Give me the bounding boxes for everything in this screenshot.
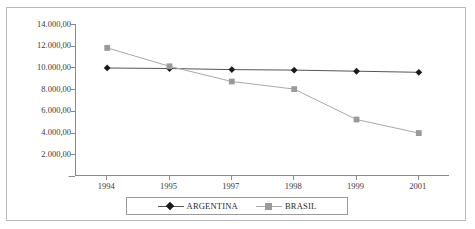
data-point-marker (228, 66, 235, 73)
x-axis-tick-label: 1998 (273, 182, 313, 191)
y-axis-labels: 14.000,0012.000,0010.000,008.000,006.000… (7, 8, 71, 222)
series-line-argentina (107, 68, 419, 72)
legend-entry-brasil[interactable]: BRASIL (256, 202, 316, 211)
y-axis-tick-label: 4.000,00 (41, 128, 71, 137)
legend-entry-argentina[interactable]: ARGENTINA (158, 202, 238, 211)
x-axis-tick-mark (293, 176, 294, 180)
x-axis-tick-mark (231, 176, 232, 180)
legend-square-marker-icon (265, 203, 272, 210)
data-point-marker (104, 65, 111, 72)
data-point-marker (353, 68, 360, 75)
x-axis-tick-mark (106, 176, 107, 180)
data-point-marker (104, 45, 110, 51)
x-axis-tick-label: 2001 (398, 182, 438, 191)
legend-key-swatch (158, 202, 184, 211)
data-point-marker (416, 130, 422, 136)
x-axis-tick-label: 1997 (211, 182, 251, 191)
y-axis-tick-label: 2.000,00 (41, 150, 71, 159)
x-axis-tick-mark (418, 176, 419, 180)
x-axis-tick-label: 1994 (86, 182, 126, 191)
y-axis-tick-label: 10.000,00 (37, 63, 71, 72)
plot-area (75, 24, 449, 176)
chart-legend: ARGENTINABRASIL (126, 197, 348, 215)
series-line-brasil (107, 48, 419, 133)
data-point-marker (167, 63, 173, 69)
x-axis-tick-label: 1999 (336, 182, 376, 191)
x-axis-tick-label: 1995 (149, 182, 189, 191)
legend-diamond-marker-icon (165, 201, 173, 209)
data-point-marker (291, 67, 298, 74)
chart-plot-wrapper: 14.000,0012.000,0010.000,008.000,006.000… (7, 8, 467, 222)
data-point-marker (354, 117, 360, 123)
y-axis-tick-label: 14.000,00 (37, 20, 71, 29)
legend-key-swatch (256, 202, 282, 211)
y-axis-tick-label: 12.000,00 (37, 41, 71, 50)
y-axis-tick-label: 8.000,00 (41, 85, 71, 94)
data-point-marker (291, 86, 297, 92)
legend-label: BRASIL (285, 202, 316, 211)
y-axis-tick-mark (71, 176, 75, 177)
data-point-marker (229, 79, 235, 85)
chart-frame: 14.000,0012.000,0010.000,008.000,006.000… (6, 7, 466, 221)
x-axis-tick-mark (356, 176, 357, 180)
x-axis-tick-mark (169, 176, 170, 180)
series-canvas (76, 24, 450, 176)
legend-label: ARGENTINA (187, 202, 238, 211)
y-axis-tick-label: 6.000,00 (41, 106, 71, 115)
data-point-marker (415, 69, 422, 76)
